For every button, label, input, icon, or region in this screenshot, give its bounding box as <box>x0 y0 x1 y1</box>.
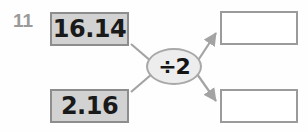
question-number: 11 <box>13 11 33 30</box>
input-box-top: 16.14 <box>50 12 129 46</box>
connector-operator-to-output-top <box>197 33 216 62</box>
answer-box-bottom[interactable] <box>220 89 298 123</box>
worksheet-problem: 11 16.14 2.16 ÷2 <box>0 0 308 133</box>
operator-divide-icon: ÷2 <box>146 48 202 85</box>
connector-operator-to-output-bottom <box>197 74 216 101</box>
connector-input-bottom-to-operator <box>131 74 152 92</box>
answer-box-top[interactable] <box>220 11 298 45</box>
input-box-bottom: 2.16 <box>50 89 129 123</box>
